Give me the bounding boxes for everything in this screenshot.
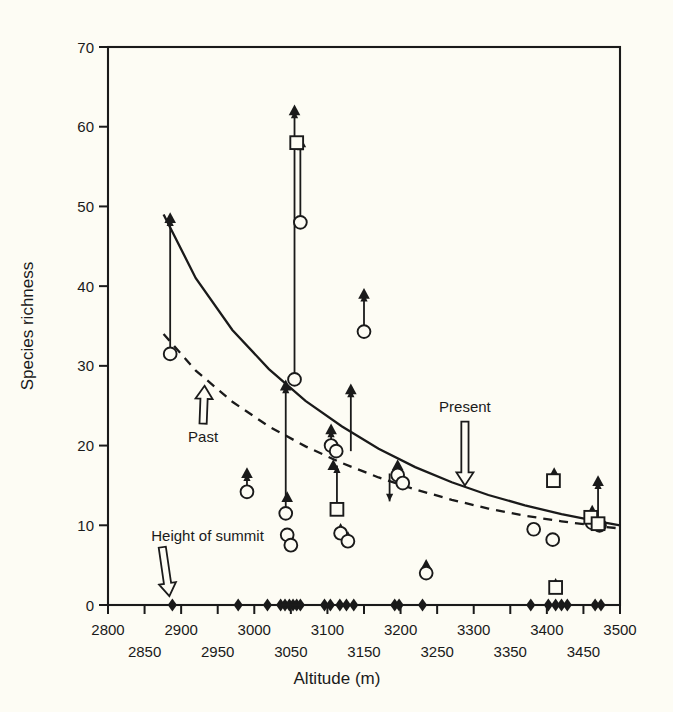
point-present-circle bbox=[527, 523, 540, 536]
annotation-label-present: Present bbox=[439, 398, 492, 415]
figure-root: 0102030405060702800285029002950300030503… bbox=[0, 0, 673, 712]
y-axis-tick-label: 50 bbox=[77, 198, 94, 215]
x-axis-tick-label: 3300 bbox=[457, 621, 490, 638]
point-open-square bbox=[547, 474, 560, 487]
point-present-circle bbox=[284, 539, 297, 552]
x-axis-tick-label: 3350 bbox=[494, 643, 527, 660]
x-axis-title: Altitude (m) bbox=[294, 669, 381, 688]
x-axis-tick-label: 2800 bbox=[91, 621, 124, 638]
point-present-circle bbox=[330, 445, 343, 458]
x-axis-tick-label: 2900 bbox=[164, 621, 197, 638]
x-axis-tick-label: 3150 bbox=[347, 643, 380, 660]
x-axis-tick-label: 2950 bbox=[201, 643, 234, 660]
point-present-circle bbox=[546, 533, 559, 546]
y-axis-tick-label: 40 bbox=[77, 278, 94, 295]
point-present-circle bbox=[288, 373, 301, 386]
y-axis-tick-label: 10 bbox=[77, 517, 94, 534]
x-axis-tick-label: 3400 bbox=[530, 621, 563, 638]
point-present-circle bbox=[241, 485, 254, 498]
point-open-square bbox=[592, 517, 605, 530]
point-present-circle bbox=[294, 216, 307, 229]
point-present-circle bbox=[164, 348, 177, 361]
point-present-circle bbox=[396, 477, 409, 490]
y-axis-title: Species richness bbox=[18, 262, 37, 391]
y-axis-tick-label: 20 bbox=[77, 437, 94, 454]
x-axis-tick-label: 3250 bbox=[420, 643, 453, 660]
point-open-square bbox=[549, 581, 562, 594]
annotation-label-height-of-summit: Height of summit bbox=[151, 527, 264, 544]
point-open-square bbox=[331, 503, 344, 516]
point-present-circle bbox=[279, 507, 292, 520]
point-present-circle bbox=[358, 325, 371, 338]
x-axis-tick-label: 3200 bbox=[384, 621, 417, 638]
x-axis-tick-label: 3500 bbox=[603, 621, 636, 638]
x-axis-tick-label: 3000 bbox=[238, 621, 271, 638]
y-axis-tick-label: 70 bbox=[77, 39, 94, 56]
x-axis-tick-label: 3050 bbox=[274, 643, 307, 660]
x-axis-tick-label: 3450 bbox=[567, 643, 600, 660]
point-present-circle bbox=[420, 567, 433, 580]
y-axis-tick-label: 30 bbox=[77, 357, 94, 374]
y-axis-tick-label: 0 bbox=[86, 597, 94, 614]
point-present-circle bbox=[342, 535, 355, 548]
species-richness-altitude-chart: 0102030405060702800285029002950300030503… bbox=[0, 0, 673, 712]
x-axis-tick-label: 3100 bbox=[311, 621, 344, 638]
y-axis-tick-label: 60 bbox=[77, 118, 94, 135]
point-open-square bbox=[290, 136, 303, 149]
x-axis-tick-label: 2850 bbox=[128, 643, 161, 660]
annotation-label-past: Past bbox=[188, 428, 219, 445]
